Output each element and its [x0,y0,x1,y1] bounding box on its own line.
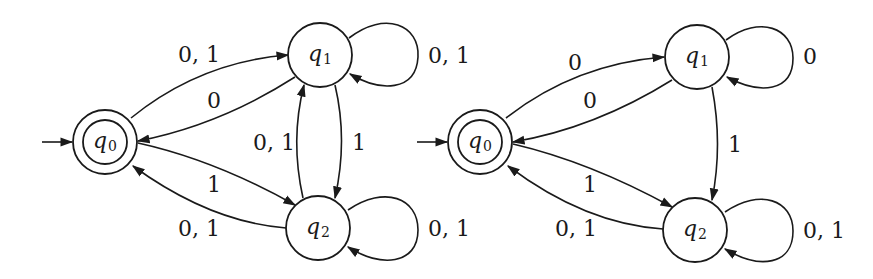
state-q2: q2 [286,196,350,260]
edge-q1-q2 [335,85,342,198]
edge-label-q1-q1: 0 [803,44,817,69]
state-q2: q2 [663,198,727,262]
edge-label-q2-q0: 0, 1 [178,216,220,241]
edge-label-q0-q1: 0 [568,50,582,75]
self-loop-q1 [726,27,793,88]
state-q1: q1 [665,25,729,89]
edge-label-q0-q1: 0, 1 [178,42,220,67]
automaton-left: 0, 1 0 0, 1 0, 1 1 1 0, 1 0, 1 q0 q1 [42,23,470,260]
state-q0: q0 [73,110,137,174]
edge-label-q2-q0: 0, 1 [555,216,597,241]
edge-label-q2-q2: 0, 1 [428,216,470,241]
self-loop-q1 [349,23,418,86]
edge-label-q1-q2: 1 [352,130,366,155]
edge-label-q1-q1: 0, 1 [428,43,470,68]
edge-label-q1-q0: 0 [207,88,221,113]
edge-label-q0-q2: 1 [583,172,597,197]
edge-label-q1-q2: 1 [728,132,742,157]
edge-label-q0-q2: 1 [207,172,221,197]
self-loop-q2 [348,197,418,260]
edge-label-q1-q0: 0 [583,88,597,113]
edge-q2-q1 [297,85,304,198]
edge-q1-q2 [712,87,718,200]
automaton-right: 0 0 0 1 1 0, 1 0, 1 q0 q1 q2 [417,25,845,262]
automata-diagram: 0, 1 0 0, 1 0, 1 1 1 0, 1 0, 1 q0 q1 [0,0,873,279]
self-loop-q2 [725,199,793,261]
edge-label-q2-q1: 0, 1 [253,130,295,155]
edge-label-q2-q2: 0, 1 [803,218,845,243]
state-q0: q0 [448,110,512,174]
state-q1: q1 [288,23,352,87]
